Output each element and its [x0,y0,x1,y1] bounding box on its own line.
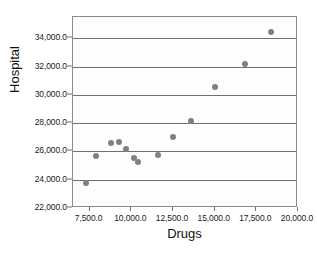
data-point [170,134,176,140]
data-point [188,118,194,124]
data-point [212,84,218,90]
y-axis-tick-label: 28,000.0 [35,117,67,127]
gridline [73,95,296,96]
y-axis-tick-mark [67,65,72,66]
y-axis-tick-mark [67,37,72,38]
y-axis-tick-label: 30,000.0 [35,89,67,99]
x-axis-title: Drugs [72,226,297,241]
x-axis-tick-label: 17,500.0 [239,213,271,223]
x-axis-tick-mark [297,207,298,211]
data-point [93,153,99,159]
x-axis-tick-label: 12,500.0 [156,213,188,223]
x-axis-tick-mark [130,207,131,211]
data-point [83,180,89,186]
x-axis-tick-label: 7,500.0 [75,213,103,223]
gridline [73,151,296,152]
x-axis-tick-label: 10,000.0 [114,213,146,223]
data-point [268,29,274,35]
y-axis-tick-label: 34,000.0 [35,32,67,42]
y-axis-tick-mark [67,207,72,208]
y-axis-tick-mark [67,150,72,151]
y-axis-title: Hospital [7,20,22,120]
y-axis-tick-label: 22,000.0 [35,202,67,212]
data-point [242,61,248,67]
plot-area [72,16,297,207]
x-axis-tick-mark [172,207,173,211]
gridline [73,67,296,68]
data-point [135,159,141,165]
y-axis-tick-label: 24,000.0 [35,174,67,184]
y-axis-tick-label: 26,000.0 [35,145,67,155]
y-axis-tick-mark [67,122,72,123]
x-axis-tick-mark [214,207,215,211]
y-axis-tick-mark [67,178,72,179]
gridline [73,123,296,124]
x-axis-tick-mark [89,207,90,211]
scatter-chart: 22,000.024,000.026,000.028,000.030,000.0… [0,0,317,253]
y-axis-tick-mark [67,93,72,94]
x-axis-tick-label: 15,000.0 [198,213,230,223]
x-axis-tick-mark [255,207,256,211]
y-axis-tick-label: 32,000.0 [35,61,67,71]
data-point [155,152,161,158]
gridline [73,180,296,181]
gridline [73,38,296,39]
data-point [123,146,129,152]
data-point [108,140,114,146]
x-axis-tick-label: 20,000.0 [281,213,313,223]
data-point [116,139,122,145]
